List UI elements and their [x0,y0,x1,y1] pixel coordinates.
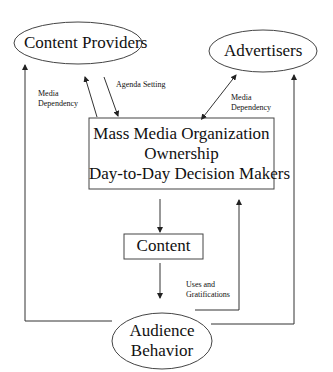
uses-gratifications-line-2: Gratifications [186,290,230,300]
organization-label: Mass Media Organization Ownership Day-to… [89,124,274,184]
uses-gratifications-line-1: Uses and [186,280,230,290]
audience-label: Audience Behavior [112,321,212,361]
organization-line-3: Day-to-Day Decision Makers [89,164,274,184]
media-dependency-right-line-1: Media [231,93,271,103]
org-to-providers-arrow [85,77,97,117]
content-label: Content [124,236,203,256]
media-dependency-right-label: Media Dependency [231,93,271,113]
agenda-setting-label: Agenda Setting [116,80,166,90]
advertisers-label: Advertisers [224,41,302,61]
content-providers-label: Content Providers [24,33,147,53]
organization-line-2: Ownership [89,144,274,164]
media-dependency-diagram: Content Providers Advertisers Mass Media… [0,0,333,372]
media-dependency-right-line-2: Dependency [231,103,271,113]
media-dependency-left-label: Media Dependency [38,89,78,109]
audience-line-1: Audience [112,321,212,341]
media-dependency-left-line-2: Dependency [38,99,78,109]
media-dependency-left-line-1: Media [38,89,78,99]
organization-line-1: Mass Media Organization [89,124,274,144]
audience-line-2: Behavior [112,341,212,361]
uses-gratifications-label: Uses and Gratifications [186,280,230,300]
